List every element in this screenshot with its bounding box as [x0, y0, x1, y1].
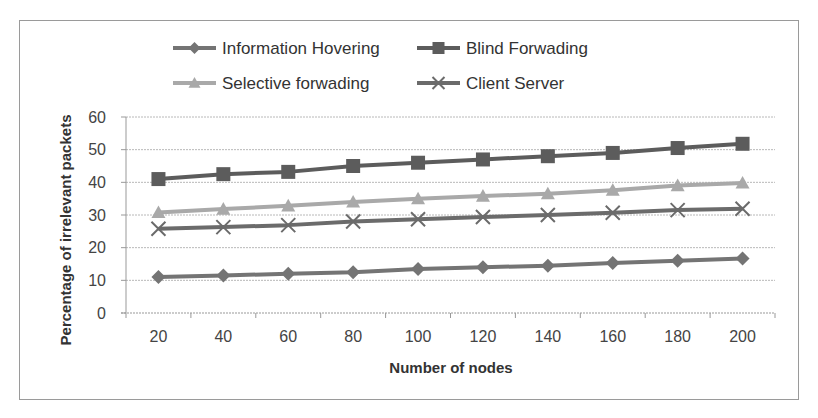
- legend-item: Information Hovering: [173, 39, 380, 58]
- square-marker-icon: [346, 159, 360, 173]
- legend-label: Selective forwading: [222, 74, 369, 93]
- y-tick-label: 10: [88, 272, 106, 289]
- legend-label: Information Hovering: [222, 39, 380, 58]
- square-marker-icon: [281, 165, 295, 179]
- x-axis-title: Number of nodes: [389, 359, 512, 376]
- x-tick-label: 40: [214, 328, 232, 345]
- diamond-marker-icon: [281, 267, 295, 281]
- x-tick-label: 180: [664, 328, 691, 345]
- y-tick-label: 30: [88, 207, 106, 224]
- x-tick-label: 20: [150, 328, 168, 345]
- series-information-hovering: [151, 251, 749, 284]
- x-tick-label: 100: [405, 328, 432, 345]
- square-marker-icon: [411, 156, 425, 170]
- y-tick-label: 0: [97, 305, 106, 322]
- x-tick-label: 160: [599, 328, 626, 345]
- x-tick-label: 120: [470, 328, 497, 345]
- diamond-marker-icon: [476, 260, 490, 274]
- diamond-marker-icon: [189, 42, 201, 54]
- series-lines: [151, 137, 749, 284]
- line-chart: 0102030405060 20406080100120140160180200…: [0, 0, 818, 418]
- diamond-marker-icon: [671, 254, 685, 268]
- square-marker-icon: [606, 146, 620, 160]
- legend-label: Blind Forwading: [466, 39, 588, 58]
- chart-container: 0102030405060 20406080100120140160180200…: [0, 0, 818, 418]
- legend: Information HoveringBlind ForwadingSelec…: [173, 39, 588, 93]
- x-tick-label: 140: [534, 328, 561, 345]
- diamond-marker-icon: [541, 259, 555, 273]
- square-marker-icon: [541, 149, 555, 163]
- x-tick-label: 80: [344, 328, 362, 345]
- square-marker-icon: [433, 42, 445, 54]
- legend-item: Client Server: [417, 74, 565, 93]
- y-tick-label: 50: [88, 141, 106, 158]
- series-blind-forwading: [151, 137, 749, 186]
- y-tick-label: 40: [88, 174, 106, 191]
- square-marker-icon: [476, 152, 490, 166]
- y-axis-title: Percentage of irrelevant packets: [57, 115, 74, 346]
- diamond-marker-icon: [346, 265, 360, 279]
- square-marker-icon: [216, 167, 230, 181]
- legend-item: Selective forwading: [173, 74, 369, 93]
- diamond-marker-icon: [736, 251, 750, 265]
- square-marker-icon: [736, 137, 750, 151]
- diamond-marker-icon: [151, 270, 165, 284]
- legend-label: Client Server: [466, 74, 565, 93]
- legend-item: Blind Forwading: [417, 39, 588, 58]
- x-tick-labels: 20406080100120140160180200: [150, 328, 756, 345]
- y-tick-label: 20: [88, 239, 106, 256]
- square-marker-icon: [671, 141, 685, 155]
- x-tick-label: 200: [729, 328, 756, 345]
- y-tick-label: 60: [88, 109, 106, 126]
- square-marker-icon: [151, 172, 165, 186]
- diamond-marker-icon: [411, 262, 425, 276]
- diamond-marker-icon: [606, 256, 620, 270]
- y-tick-labels: 0102030405060: [88, 109, 106, 322]
- x-tick-label: 60: [279, 328, 297, 345]
